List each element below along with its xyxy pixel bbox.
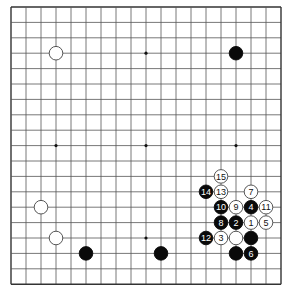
black-stone[interactable]: 14 xyxy=(199,185,213,199)
black-stone[interactable]: 12 xyxy=(199,231,213,245)
white-stone[interactable]: 3 xyxy=(214,231,228,245)
stone-disc xyxy=(34,200,48,214)
move-number-label: 15 xyxy=(216,172,226,182)
stone-disc xyxy=(49,231,63,245)
stone-disc xyxy=(244,231,258,245)
black-stone[interactable]: 8 xyxy=(214,216,228,230)
move-number-label: 10 xyxy=(216,202,226,212)
white-stone[interactable]: 11 xyxy=(259,200,273,214)
move-number-label: 11 xyxy=(261,202,270,212)
white-stone[interactable]: 9 xyxy=(229,200,243,214)
white-stone[interactable]: 5 xyxy=(259,216,273,230)
black-stone[interactable] xyxy=(154,247,168,261)
stone-disc xyxy=(154,247,168,261)
stone-disc xyxy=(49,46,63,60)
black-stone[interactable] xyxy=(244,231,258,245)
black-stone[interactable] xyxy=(229,46,243,60)
stone-disc xyxy=(79,247,93,261)
move-number-label: 4 xyxy=(248,202,253,212)
white-stone[interactable]: 15 xyxy=(214,170,228,184)
move-number-label: 8 xyxy=(218,218,223,228)
white-stone[interactable] xyxy=(49,46,63,60)
move-number-label: 14 xyxy=(201,187,211,197)
black-stone[interactable] xyxy=(229,247,243,261)
stone-disc xyxy=(229,231,243,245)
black-stone[interactable]: 6 xyxy=(244,247,258,261)
star-point xyxy=(54,144,57,147)
star-point xyxy=(144,144,147,147)
white-stone[interactable] xyxy=(49,231,63,245)
black-stone[interactable]: 10 xyxy=(214,200,228,214)
move-number-label: 7 xyxy=(248,187,253,197)
black-stone[interactable]: 4 xyxy=(244,200,258,214)
star-point xyxy=(144,52,147,55)
move-number-label: 12 xyxy=(201,233,211,243)
star-point xyxy=(144,236,147,239)
white-stone[interactable] xyxy=(229,231,243,245)
move-number-label: 3 xyxy=(218,233,223,243)
move-number-label: 9 xyxy=(233,202,238,212)
black-stone[interactable] xyxy=(79,247,93,261)
white-stone[interactable]: 7 xyxy=(244,185,258,199)
black-stone[interactable]: 2 xyxy=(229,216,243,230)
white-stone[interactable]: 1 xyxy=(244,216,258,230)
go-board[interactable]: 123456789101112131415 xyxy=(0,0,290,300)
stone-disc xyxy=(229,46,243,60)
move-number-label: 6 xyxy=(248,249,253,259)
stone-disc xyxy=(229,247,243,261)
white-stone[interactable] xyxy=(34,200,48,214)
move-number-label: 13 xyxy=(216,187,226,197)
white-stone[interactable]: 13 xyxy=(214,185,228,199)
move-number-label: 1 xyxy=(248,218,253,228)
move-number-label: 5 xyxy=(263,218,268,228)
star-point xyxy=(234,144,237,147)
move-number-label: 2 xyxy=(233,218,238,228)
